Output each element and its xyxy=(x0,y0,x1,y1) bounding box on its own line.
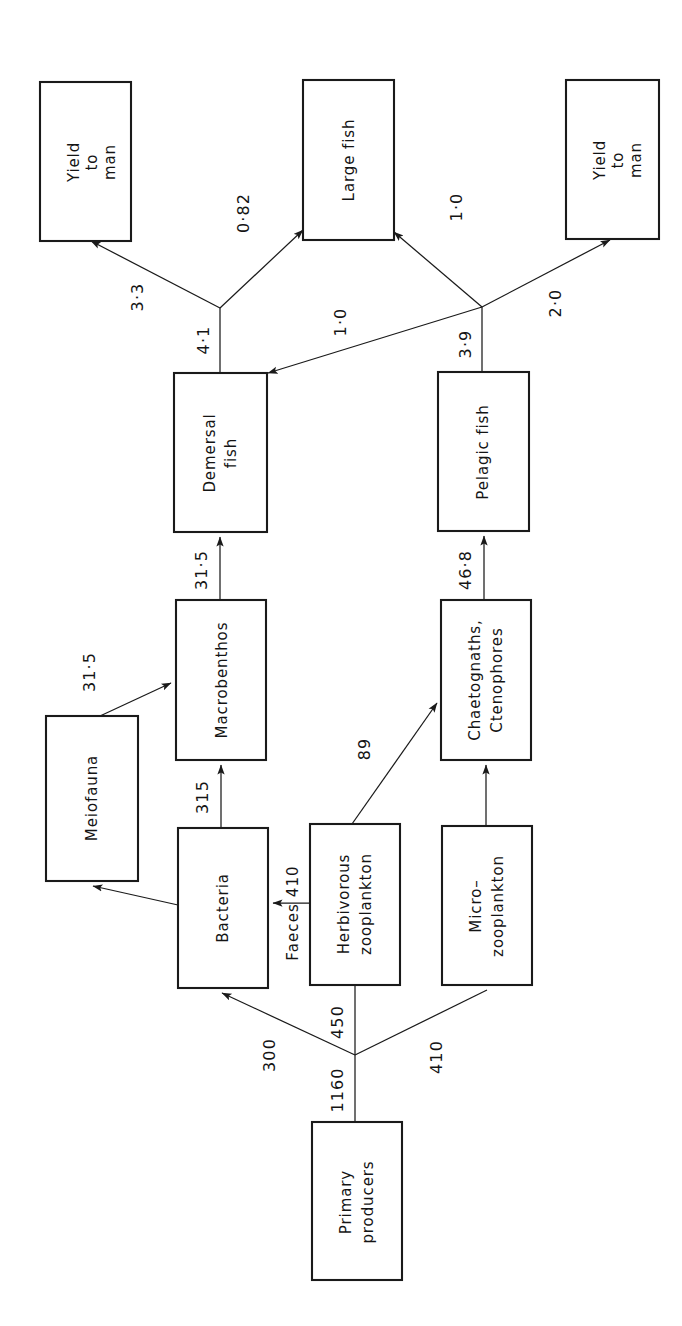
node-label-micro-line2: zooplankton xyxy=(489,855,507,957)
flow-label-macro-to-demersal: 31·5 xyxy=(192,550,211,590)
flow-label-large-from-demersal: 0·82 xyxy=(234,193,253,233)
node-label-pelagic-fish: Pelagic fish xyxy=(474,404,492,499)
connectors xyxy=(91,230,610,1122)
node-label-macrobenthos: Macrobenthos xyxy=(213,622,231,739)
node-label-yield-left-line2: to xyxy=(83,154,101,171)
line-pelagic-to-demersal xyxy=(268,307,482,373)
node-herbivorous-zoo-box[interactable] xyxy=(310,824,400,985)
flow-label-bacteria-to-macro: 315 xyxy=(193,780,212,814)
node-label-large-fish: Large fish xyxy=(340,119,358,202)
node-chaetognaths-box[interactable] xyxy=(441,600,531,760)
node-label-yield-right-line1: Yield xyxy=(591,140,609,181)
node-micro-zoo-box[interactable] xyxy=(442,826,532,985)
node-label-yield-left-line1: Yield xyxy=(65,142,83,183)
flow-label-meio-to-macro: 31·5 xyxy=(80,652,99,692)
node-label-chaetognaths-line1: Chaetognaths, xyxy=(466,619,484,740)
node-label-demersal-line1: Demersal xyxy=(201,413,219,492)
node-label-micro-line1: Micro– xyxy=(467,879,485,932)
flow-diagram-svg: Yield to man Large fish Yield to man Dem… xyxy=(0,0,682,1326)
line-split-to-large-fish xyxy=(220,230,303,308)
flow-label-pelagic-to-demersal: 1·0 xyxy=(331,308,350,337)
node-label-bacteria: Bacteria xyxy=(214,873,232,943)
line-split-to-large-fish-right xyxy=(394,232,482,307)
flow-label-large-from-pelagic: 1·0 xyxy=(447,193,466,222)
node-label-demersal-line2: fish xyxy=(222,438,240,468)
node-demersal-fish-box[interactable] xyxy=(174,373,267,532)
food-web-diagram: Yield to man Large fish Yield to man Dem… xyxy=(0,0,682,1326)
node-label-primary-line1: Primary xyxy=(337,1170,355,1234)
node-label-yield-left-line3: man xyxy=(101,144,119,180)
flow-label-pp-to-micro: 410 xyxy=(427,1040,446,1074)
flow-label-yield-left: 3·3 xyxy=(128,283,147,312)
line-split-to-micro xyxy=(355,990,487,1055)
flow-label-pelagic-split: 3·9 xyxy=(456,330,475,359)
node-label-yield-right-line2: to xyxy=(609,152,627,169)
nodes xyxy=(40,80,659,1280)
flow-label-herb-to-chaeto: 89 xyxy=(355,738,374,761)
node-label-chaetognaths-line2: Ctenophores xyxy=(488,627,506,732)
line-split-to-yield-left xyxy=(91,241,220,308)
flow-label-chaeto-to-pelagic: 46·8 xyxy=(456,550,475,590)
flow-label-faeces: Faeces 410 xyxy=(284,865,302,960)
node-label-meiofauna: Meiofauna xyxy=(83,755,101,841)
node-label-herbivorous-line2: zooplankton xyxy=(357,853,375,955)
flow-label-pp-to-herbivorous: 450 xyxy=(328,1005,347,1039)
line-bacteria-to-meiofauna xyxy=(93,886,178,905)
flow-label-yield-right: 2·0 xyxy=(546,289,565,318)
flow-label-demersal-split: 4·1 xyxy=(194,326,213,355)
node-label-primary-line2: producers xyxy=(359,1160,377,1243)
node-label-herbivorous-line1: Herbivorous xyxy=(335,854,353,955)
line-meiofauna-to-macrobenthos xyxy=(100,683,171,716)
node-primary-producers-box[interactable] xyxy=(312,1122,402,1280)
flow-label-pp-total: 1160 xyxy=(328,1067,347,1112)
flow-label-pp-to-bacteria: 300 xyxy=(260,1038,279,1072)
node-label-yield-right-line3: man xyxy=(627,142,645,178)
line-herbivorous-to-chaetognaths xyxy=(352,703,437,824)
